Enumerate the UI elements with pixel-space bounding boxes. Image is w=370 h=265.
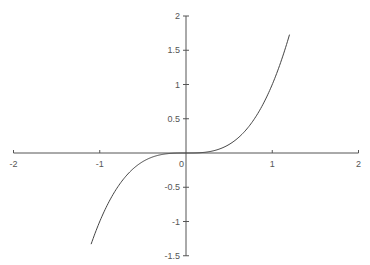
axes bbox=[14, 16, 359, 256]
y-tick-label: -1.5 bbox=[164, 251, 180, 261]
x-tick-label: 1 bbox=[270, 159, 275, 169]
x-tick-label: 0 bbox=[179, 159, 184, 169]
x-tick-label: 2 bbox=[356, 159, 361, 169]
x-tick-label: -2 bbox=[9, 159, 17, 169]
y-tick-label: 1.5 bbox=[167, 45, 180, 55]
y-tick-label: 2 bbox=[175, 11, 180, 21]
y-tick-label: 1 bbox=[175, 80, 180, 90]
y-tick-label: 0.5 bbox=[167, 114, 180, 124]
y-tick-label: -0.5 bbox=[164, 182, 180, 192]
cubic-curve bbox=[91, 35, 289, 245]
y-axis-ticks: -1.5-1-0.50.511.52 bbox=[164, 11, 189, 261]
x-tick-label: -1 bbox=[96, 159, 104, 169]
cubic-function-chart: -2-1012 -1.5-1-0.50.511.52 bbox=[0, 0, 370, 265]
y-tick-label: -1 bbox=[172, 217, 180, 227]
